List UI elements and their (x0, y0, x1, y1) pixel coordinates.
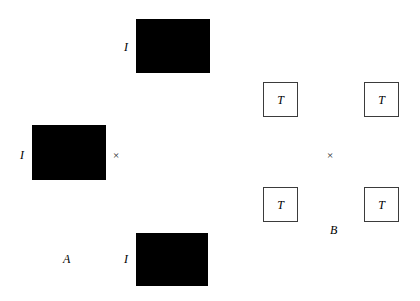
square-label-t-bottom-left: T (264, 188, 297, 221)
group-caption-a: A (63, 253, 70, 265)
block-i-top (136, 19, 210, 73)
block-i-bottom (136, 233, 208, 286)
center-marker-a-icon: × (113, 150, 119, 161)
block-label-i-left: I (20, 149, 24, 161)
block-label-i-bottom: I (124, 253, 128, 265)
block-i-left (32, 125, 106, 180)
square-t-bottom-left: T (263, 187, 298, 222)
block-label-i-top: I (124, 41, 128, 53)
square-t-bottom-right: T (364, 187, 399, 222)
square-label-t-bottom-right: T (365, 188, 398, 221)
center-marker-b-icon: × (327, 150, 333, 161)
figure-canvas: I I I × A T T T T × B (0, 0, 420, 301)
square-t-top-right: T (364, 82, 399, 117)
group-caption-b: B (330, 224, 337, 236)
square-t-top-left: T (263, 82, 298, 117)
square-label-t-top-left: T (264, 83, 297, 116)
square-label-t-top-right: T (365, 83, 398, 116)
